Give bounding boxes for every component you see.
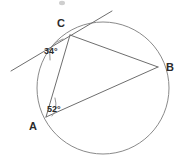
vertex-label-a: A <box>29 120 37 132</box>
geometry-figure: C B A 34° 52° <box>0 0 182 162</box>
vertex-label-b: B <box>166 61 174 73</box>
scan-speck-artifact <box>59 1 65 5</box>
chord-ab <box>46 67 158 117</box>
angle-label-34-degrees: 34° <box>44 46 58 56</box>
angle-label-52-degrees: 52° <box>47 104 61 114</box>
chord-cb <box>70 35 158 67</box>
vertex-label-c: C <box>57 17 65 29</box>
geometry-canvas: C B A 34° 52° <box>0 0 182 162</box>
